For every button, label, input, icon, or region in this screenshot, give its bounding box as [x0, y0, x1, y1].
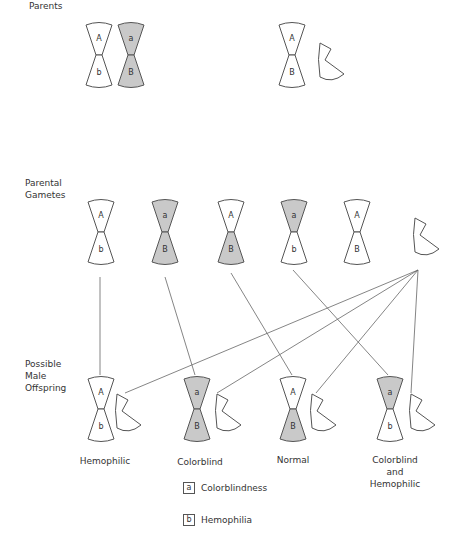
svg-text:B: B — [354, 245, 360, 254]
row-label-offspring: Possible Male Offspring — [25, 358, 66, 394]
offspring-label-line1: Colorblind — [355, 454, 435, 466]
svg-text:B: B — [162, 245, 168, 254]
row-label-offspring-line2: Male — [25, 370, 66, 382]
offspring-normal: A B — [280, 377, 336, 442]
svg-text:B: B — [194, 422, 200, 431]
gamete-5: A B — [344, 200, 370, 265]
offspring-label-line3: Hemophilic — [355, 478, 435, 490]
mother-chromosome-1: A b — [86, 23, 112, 88]
father-y-chromosome — [319, 43, 345, 80]
gamete-1: A b — [88, 200, 114, 265]
svg-text:A: A — [98, 211, 104, 220]
mother-chromosome-2: a B — [118, 23, 144, 88]
offspring-label-colorblind: Colorblind — [165, 456, 235, 468]
offspring-hemophilic: A b — [88, 377, 141, 442]
svg-text:b: b — [98, 245, 103, 254]
svg-text:A: A — [289, 34, 295, 43]
svg-text:a: a — [388, 388, 393, 397]
row-label-offspring-line1: Possible — [25, 358, 66, 370]
svg-text:b: b — [96, 68, 101, 77]
offspring-label-line2: and — [355, 466, 435, 478]
svg-text:A: A — [98, 388, 104, 397]
offspring-label-colorblind-hemophilic: Colorblind and Hemophilic — [355, 454, 435, 490]
svg-text:b: b — [98, 422, 103, 431]
legend-text-colorblindness: Colorblindness — [201, 483, 267, 493]
svg-text:a: a — [163, 211, 168, 220]
svg-text:A: A — [228, 211, 234, 220]
svg-text:A: A — [96, 34, 102, 43]
offspring-colorblind-hemophilic: a b — [377, 377, 435, 442]
row-label-gametes-line2: Gametes — [25, 189, 66, 201]
legend-colorblindness: a Colorblindness — [183, 482, 267, 494]
svg-text:A: A — [354, 211, 360, 220]
legend-text-hemophilia: Hemophilia — [201, 515, 252, 525]
svg-text:B: B — [228, 245, 234, 254]
gamete-2: a B — [152, 200, 178, 265]
svg-text:A: A — [290, 388, 296, 397]
svg-text:b: b — [387, 422, 392, 431]
gamete-3: A B — [218, 200, 244, 265]
row-label-gametes-line1: Parental — [25, 177, 66, 189]
legend-hemophilia: b Hemophilia — [183, 514, 252, 526]
father-x-chromosome: A B — [279, 23, 305, 88]
connector-lines — [100, 270, 418, 393]
svg-text:a: a — [129, 34, 134, 43]
row-label-offspring-line3: Offspring — [25, 382, 66, 394]
legend-symbol-a: a — [183, 482, 195, 494]
svg-text:a: a — [195, 388, 200, 397]
row-label-gametes: Parental Gametes — [25, 177, 66, 201]
gamete-y-chromosome — [414, 218, 440, 255]
offspring-label-normal: Normal — [258, 454, 328, 466]
svg-text:B: B — [289, 68, 295, 77]
legend-symbol-b: b — [183, 514, 195, 526]
svg-text:b: b — [291, 245, 296, 254]
offspring-colorblind: a B — [184, 377, 241, 442]
svg-text:B: B — [128, 68, 134, 77]
gamete-4: a b — [281, 200, 307, 265]
row-label-parents: Parents — [29, 0, 63, 12]
svg-text:a: a — [292, 211, 297, 220]
svg-text:B: B — [290, 422, 296, 431]
offspring-label-hemophilic: Hemophilic — [70, 455, 140, 467]
